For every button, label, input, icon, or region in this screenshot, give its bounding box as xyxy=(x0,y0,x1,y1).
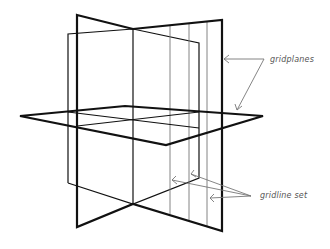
gridplanes-label: gridplanes xyxy=(270,55,314,64)
gridplanes-arrows xyxy=(224,55,264,110)
horizontal-plane xyxy=(20,106,263,145)
gridplanes-diagram xyxy=(0,0,330,249)
gridline-set-label: gridline set xyxy=(260,191,307,200)
gridline-set xyxy=(170,21,207,226)
gridline-set-arrows xyxy=(172,170,251,202)
